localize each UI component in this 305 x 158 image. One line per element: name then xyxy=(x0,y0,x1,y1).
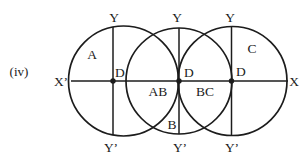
label-center-d-2: D xyxy=(184,65,194,80)
center-dot-3 xyxy=(229,78,234,83)
label-x-left: X’ xyxy=(54,74,68,89)
geometry-figure: (iv) X’ X Y Y Y Y’ Y’ Y’ D D D A C AB BC… xyxy=(0,0,305,158)
figure-item-number: (iv) xyxy=(10,64,29,79)
circles-diagram-canvas: (iv) X’ X Y Y Y Y’ Y’ Y’ D D D A C AB BC… xyxy=(0,0,305,158)
label-region-ab: AB xyxy=(149,84,168,99)
label-y-bottom-3: Y’ xyxy=(225,140,239,155)
label-y-top-1: Y xyxy=(109,10,119,25)
label-y-top-2: Y xyxy=(172,10,182,25)
center-dot-2 xyxy=(176,78,181,83)
label-y-bottom-1: Y’ xyxy=(104,140,118,155)
label-x-right: X xyxy=(289,74,299,89)
label-center-d-3: D xyxy=(236,64,246,79)
label-y-top-3: Y xyxy=(225,10,235,25)
label-region-c: C xyxy=(247,41,256,56)
label-center-d-1: D xyxy=(115,65,125,80)
label-region-b: B xyxy=(167,117,176,132)
label-y-bottom-2: Y’ xyxy=(173,140,187,155)
label-region-a: A xyxy=(87,47,97,62)
label-region-bc: BC xyxy=(196,84,214,99)
